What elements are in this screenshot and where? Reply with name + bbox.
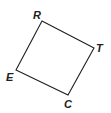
vertex-label-r: R [33,10,41,21]
diagram-canvas: R T E C [0,0,111,113]
vertex-label-t: T [96,43,103,54]
vertex-label-c: C [64,99,72,110]
quadrilateral-rtce [16,21,94,95]
vertex-label-e: E [6,72,13,83]
quadrilateral-figure [0,0,111,113]
